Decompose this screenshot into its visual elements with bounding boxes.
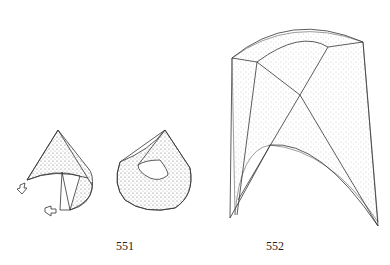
cone-left [27, 130, 93, 210]
figure-label-551: 551 [116, 239, 134, 253]
cone-curled [117, 130, 191, 210]
figure-label-552: 552 [266, 239, 284, 253]
arch-surface [230, 29, 378, 226]
figure-canvas: 551 552 [0, 0, 390, 265]
fold-arrow-icon [17, 183, 56, 216]
